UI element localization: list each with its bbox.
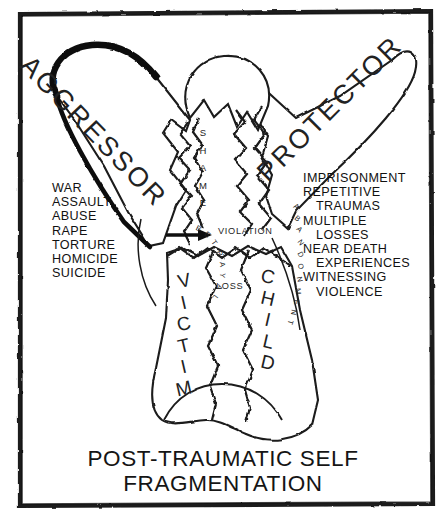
right-list-item: MULTIPLE: [303, 214, 410, 228]
figure-title-line1: POST-TRAUMATIC SELF: [87, 446, 358, 471]
right-list-item: EXPERIENCES: [303, 256, 410, 270]
right-list-item: REPETITIVE: [303, 185, 410, 199]
label-violation: VIOLATION: [218, 226, 273, 236]
betrayal-letter: A: [217, 261, 226, 267]
victim-letter: M: [174, 376, 194, 401]
child-letter: H: [259, 286, 277, 310]
child-letter: D: [259, 351, 277, 375]
victim-letter: C: [175, 312, 193, 336]
right-list-item: IMPRISONMENT: [303, 171, 410, 185]
victim-letter: I: [179, 291, 189, 313]
shame-letter: A: [200, 159, 207, 177]
left-list-item: SUICIDE: [52, 266, 118, 280]
abandonment-letter: M: [294, 287, 304, 294]
shame-letter: H: [200, 142, 207, 160]
victim-letter: T: [176, 333, 192, 357]
right-list-item: VIOLENCE: [303, 285, 410, 299]
abandonment-letter: E: [292, 299, 301, 305]
child-letter: I: [263, 309, 273, 331]
right-trauma-list: IMPRISONMENTREPETITIVETRAUMASMULTIPLELOS…: [303, 171, 410, 299]
crack-aggressor-shame: [179, 122, 192, 244]
victim-letter: I: [179, 356, 189, 378]
victim-letter: V: [175, 269, 192, 293]
left-list-item: HOMICIDE: [52, 252, 118, 266]
left-trauma-list: WARASSAULTABUSERAPETORTUREHOMICIDESUICID…: [52, 181, 118, 280]
child-letter: L: [260, 330, 275, 353]
right-list-item: WITNESSING: [303, 270, 410, 284]
shame-letter: M: [199, 177, 207, 195]
figure-root: AGGRESSOR PROTECTOR S H A M E VIOLATION …: [0, 0, 446, 521]
left-list-item: TORTURE: [52, 238, 118, 252]
shame-letter: E: [200, 194, 207, 212]
right-list-item: TRAUMAS: [303, 199, 410, 213]
shame-letter: S: [200, 124, 207, 142]
label-child: C H I L D: [261, 266, 275, 374]
right-list-item: LOSSES: [303, 228, 410, 242]
figure-title-line2: FRAGMENTATION: [0, 471, 446, 496]
figure-title: POST-TRAUMATIC SELF FRAGMENTATION: [0, 446, 446, 496]
left-list-item: ABUSE: [52, 209, 118, 223]
left-list-item: ASSAULT: [52, 195, 118, 209]
label-shame: S H A M E: [199, 124, 207, 212]
left-list-item: WAR: [52, 181, 118, 195]
child-letter: C: [259, 265, 277, 289]
label-victim: V I C T I M: [176, 270, 192, 399]
left-list-item: RAPE: [52, 224, 118, 238]
right-list-item: NEAR DEATH: [303, 242, 410, 256]
